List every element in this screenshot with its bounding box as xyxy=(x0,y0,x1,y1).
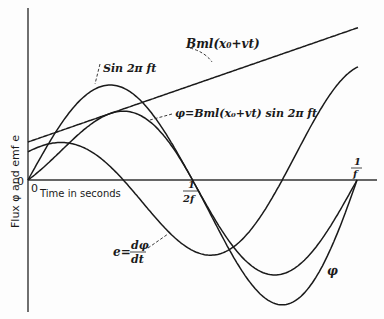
diagram-canvas: Flux φ and emf e 0 0 Time in seconds 1 2… xyxy=(0,0,384,319)
tick-period-num: 1 xyxy=(354,156,361,167)
origin-x-label: 0 xyxy=(31,182,38,195)
line-label: Bml(x₀+vt) xyxy=(185,37,260,51)
tick-half-period-den: 2f xyxy=(182,193,196,204)
emf-label-lhs: e= xyxy=(113,245,131,259)
flux-phi-curve xyxy=(28,111,357,305)
origin-y-label: 0 xyxy=(17,175,24,188)
sine-label-leader xyxy=(95,64,100,84)
emf-label-num: dφ xyxy=(131,239,149,252)
emf-e-curve xyxy=(28,67,358,255)
tick-period-den: f xyxy=(352,168,359,179)
phi-short-label: φ xyxy=(327,264,338,278)
x-axis-label: Time in seconds xyxy=(39,188,121,199)
emf-label-den: dt xyxy=(131,253,144,266)
flux-emf-diagram: Flux φ and emf e 0 0 Time in seconds 1 2… xyxy=(0,0,384,319)
emf-label-leader xyxy=(148,234,168,248)
phi-label: φ=Bml(x₀+vt) sin 2π ft xyxy=(175,107,317,120)
sine-label: Sin 2π ft xyxy=(103,62,156,75)
tick-half-period-num: 1 xyxy=(188,179,195,190)
